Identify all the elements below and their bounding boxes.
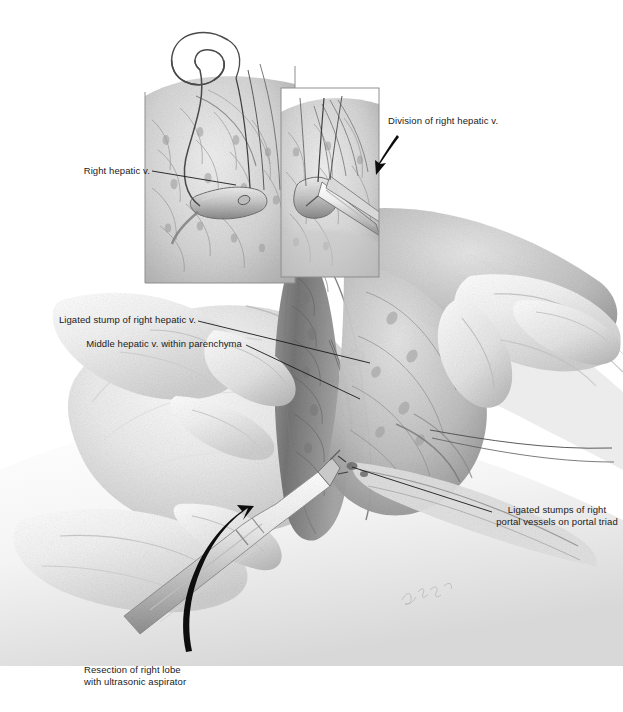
surgical-illustration-figure: Right hepatic v. Division of right hepat…: [0, 0, 623, 712]
label-ligated-stump-right-hepatic-v: Ligated stump of right hepatic v.: [10, 314, 196, 326]
label-resection-caption: Resection of right lobe with ultrasonic …: [84, 664, 186, 688]
label-middle-hepatic-v: Middle hepatic v. within parenchyma: [10, 338, 242, 350]
inset-panel-left: [145, 33, 295, 283]
label-right-hepatic-v: Right hepatic v.: [10, 165, 150, 177]
inset-panel-right: [281, 88, 386, 277]
label-ligated-stumps-portal: Ligated stumps of right portal vessels o…: [496, 504, 618, 528]
illustration-artwork: [0, 0, 623, 712]
label-division-of-right-hepatic-v: Division of right hepatic v.: [388, 115, 498, 127]
